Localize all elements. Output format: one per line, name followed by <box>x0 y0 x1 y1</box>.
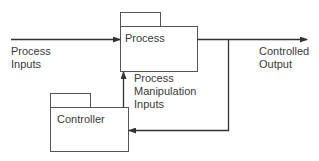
control-loop-diagram: Process Controller Process Inputs Contro… <box>0 0 319 161</box>
controlled-output-label-line2: Output <box>259 58 292 71</box>
manipulation-label-line2: Manipulation <box>134 85 196 98</box>
process-inputs-label-line2: Inputs <box>11 58 41 71</box>
manipulation-label-line3: Inputs <box>134 98 164 111</box>
controlled-output-label-line1: Controlled <box>259 45 309 58</box>
controller-block-label: Controller <box>57 113 105 126</box>
process-inputs-label-line1: Process <box>11 45 51 58</box>
manipulation-label-line1: Process <box>134 72 174 85</box>
process-block-label: Process <box>125 32 165 45</box>
